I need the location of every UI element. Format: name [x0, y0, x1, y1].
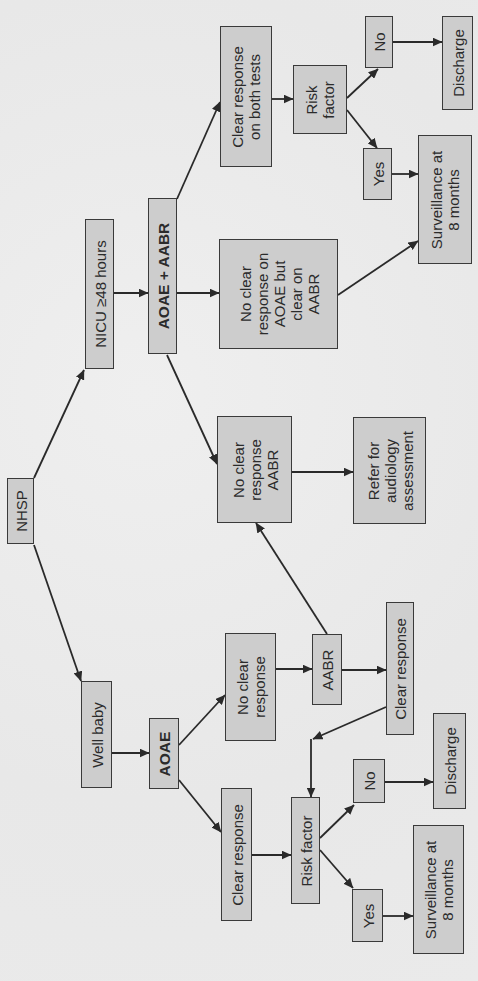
node-clear-response-aoae: Clear response — [221, 788, 252, 921]
node-label: No clear — [236, 253, 253, 336]
arrow-risk-yes-top — [347, 110, 377, 148]
node-label: No — [361, 771, 378, 790]
arrow-risk-no-top — [347, 69, 378, 98]
node-discharge-nicu: Discharge — [442, 16, 473, 110]
arrow-aoae-aabr-no-clear-aabr — [167, 355, 217, 464]
node-label: Clear response — [228, 804, 245, 906]
node-label: response — [251, 656, 268, 718]
node-label: audiology — [381, 430, 398, 510]
node-clear-response-aabr: Clear response — [386, 602, 414, 735]
node-label: factor — [320, 81, 337, 119]
node-label: Clear response — [229, 46, 246, 148]
node-label: 8 months — [439, 840, 456, 938]
node-label: response on — [253, 253, 270, 336]
node-no-clear-well: No clear response — [225, 633, 276, 741]
node-label: 8 months — [445, 150, 462, 248]
node-label: Surveillance at — [422, 840, 439, 938]
node-label: AOAE — [156, 731, 173, 776]
arrow-aoae-clear-response — [179, 780, 221, 832]
node-no-nicu: No — [365, 16, 393, 68]
node-label: AABR — [319, 649, 336, 690]
node-label: AOAE but — [270, 253, 287, 336]
node-clear-both: Clear response on both tests — [220, 26, 272, 167]
arrow-nhsp-well-baby — [34, 545, 81, 681]
arrow-risk-yes-bottom — [320, 850, 353, 888]
diagram-canvas: NHSP NICU ≥48 hours AOAE + AABR Clear re… — [0, 0, 478, 981]
node-label: Surveillance at — [428, 150, 445, 248]
node-aoae: AOAE — [149, 718, 179, 789]
arrow-nhsp-nicu — [34, 370, 84, 478]
node-label: NICU ≥48 hours — [91, 240, 108, 347]
arrow-risk-no-bottom — [320, 805, 354, 838]
node-aabr-well: AABR — [312, 634, 342, 705]
arrow-aoae-no-clear — [179, 695, 225, 745]
node-no-well: No — [353, 759, 385, 803]
node-label: assessment — [398, 430, 415, 510]
node-surveillance-well: Surveillance at 8 months — [413, 825, 464, 954]
node-yes-nicu: Yes — [363, 148, 392, 200]
node-label: No clear — [229, 439, 246, 501]
node-no-clear-aoae-clear-aabr: No clear response on AOAE but clear on A… — [219, 239, 338, 349]
node-label: AABR — [304, 253, 321, 336]
node-label: No — [371, 32, 388, 51]
node-risk-factor-nicu: Risk factor — [293, 65, 347, 134]
node-label: No clear — [234, 656, 251, 718]
node-no-clear-aabr: No clear response AABR — [217, 416, 292, 523]
node-label: AOAE + AABR — [154, 223, 171, 330]
node-label: Discharge — [449, 29, 466, 97]
arrow-aoae-aabr-clear-both — [177, 102, 220, 199]
node-label: clear on — [287, 253, 304, 336]
node-label: on both tests — [246, 46, 263, 148]
node-label: Discharge — [441, 727, 458, 795]
node-well-baby: Well baby — [81, 681, 112, 788]
node-nhsp: NHSP — [7, 478, 34, 544]
arrow-clear-response-bend — [313, 707, 386, 739]
node-aoae-aabr: AOAE + AABR — [148, 198, 177, 354]
node-nicu: NICU ≥48 hours — [85, 219, 114, 369]
node-discharge-well: Discharge — [433, 713, 466, 809]
arrow-aabr-no-clear-aabr — [256, 523, 327, 634]
node-label: Risk — [303, 81, 320, 119]
node-risk-factor-well: Risk factor — [291, 797, 320, 904]
arrow-no-clear-aoae-surveillance — [338, 241, 418, 295]
node-label: Yes — [369, 162, 386, 186]
node-yes-well: Yes — [352, 889, 383, 942]
node-label: NHSP — [12, 490, 29, 532]
node-surveillance-nicu: Surveillance at 8 months — [418, 135, 472, 264]
node-label: Well baby — [88, 702, 105, 768]
node-label: Risk factor — [297, 815, 314, 886]
node-label: AABR — [263, 439, 280, 501]
node-label: Refer for — [364, 430, 381, 510]
node-refer-audiology: Refer for audiology assessment — [353, 417, 426, 524]
node-label: Clear response — [392, 618, 409, 720]
node-label: Yes — [359, 903, 376, 927]
node-label: response — [246, 439, 263, 501]
